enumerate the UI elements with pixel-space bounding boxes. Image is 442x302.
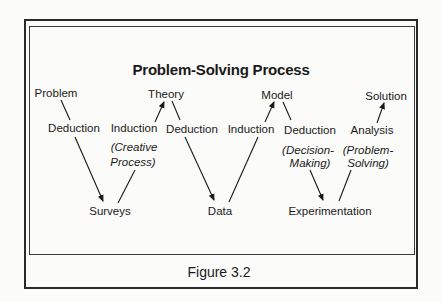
analysis-to-solution-arrow	[377, 103, 384, 123]
node-model: Model	[261, 89, 292, 102]
node-solution: Solution	[365, 90, 407, 103]
node-experimentation: Experimentation	[288, 205, 371, 218]
model-to-deduction-line	[283, 102, 291, 120]
theory-to-deduction-line	[172, 101, 180, 120]
figure-caption: Figure 3.2	[187, 264, 250, 280]
label-deduction-2: Deduction	[166, 123, 218, 136]
label-induction-1: Induction	[111, 122, 158, 135]
experimentation-to-solving-line	[339, 170, 351, 201]
deduction-to-data-arrow	[185, 137, 214, 200]
induction-to-theory-arrow	[155, 102, 164, 122]
node-problem: Problem	[35, 87, 78, 100]
diagram-title: Problem-Solving Process	[132, 61, 309, 78]
deduction-to-surveys-arrow	[75, 137, 103, 201]
note-solving: Solving)	[347, 157, 389, 170]
node-data: Data	[208, 205, 232, 218]
node-surveys: Surveys	[89, 205, 131, 218]
note-decision: (Decision-	[282, 144, 334, 157]
label-analysis: Analysis	[351, 124, 394, 137]
induction-to-model-arrow	[265, 102, 274, 122]
node-theory: Theory	[148, 88, 184, 101]
label-induction-2: Induction	[228, 123, 275, 136]
label-deduction-1: Deduction	[48, 122, 100, 135]
surveys-to-process-line	[118, 170, 135, 203]
problem-to-deduction-line	[61, 100, 70, 120]
data-to-induction-line	[229, 137, 258, 202]
making-to-experimentation-arrow	[310, 170, 323, 200]
note-making: Making)	[290, 157, 331, 170]
label-deduction-3: Deduction	[284, 124, 336, 137]
note-process: Process)	[110, 156, 155, 169]
note-creative: (Creative	[111, 141, 158, 154]
note-problem: (Problem-	[343, 144, 393, 157]
